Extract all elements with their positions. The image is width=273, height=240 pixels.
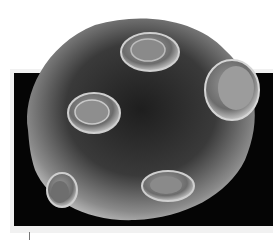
pore-left [68, 93, 120, 133]
spore-micrograph [0, 0, 273, 240]
pore-bottom [142, 171, 194, 201]
pore-right [205, 60, 259, 120]
pore-bottom-left [47, 173, 77, 207]
pore-top [121, 33, 179, 71]
